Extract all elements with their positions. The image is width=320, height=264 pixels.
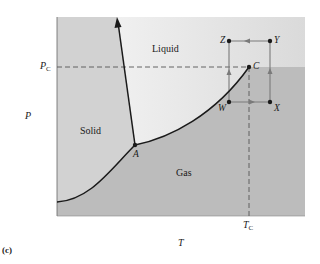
liquid-label: Liquid bbox=[152, 44, 179, 54]
critical-temperature-label: TC bbox=[243, 220, 253, 232]
critical-pressure-label-sub: C bbox=[46, 65, 51, 73]
point-x-label: X bbox=[274, 104, 280, 114]
triple-point-label: A bbox=[133, 150, 139, 160]
figure-caption: (c) bbox=[2, 246, 12, 255]
critical-pressure-label: PC bbox=[40, 61, 51, 73]
critical-temperature-label-sub: C bbox=[249, 224, 254, 232]
point-y-dot bbox=[268, 39, 272, 43]
y-axis-label: P bbox=[25, 111, 31, 121]
critical-point-label: C bbox=[253, 62, 259, 72]
gas-label: Gas bbox=[176, 168, 192, 178]
x-axis-label: T bbox=[178, 238, 184, 248]
point-w-dot bbox=[227, 100, 231, 104]
point-z-label: Z bbox=[220, 36, 225, 46]
point-y-label: Y bbox=[274, 36, 279, 46]
point-z-dot bbox=[227, 39, 231, 43]
phase-diagram bbox=[0, 0, 320, 264]
point-w-label: W bbox=[218, 104, 226, 114]
triple-point-dot bbox=[133, 143, 137, 147]
solid-label: Solid bbox=[80, 126, 101, 136]
point-x-dot bbox=[268, 100, 272, 104]
critical-point-dot bbox=[247, 65, 251, 69]
